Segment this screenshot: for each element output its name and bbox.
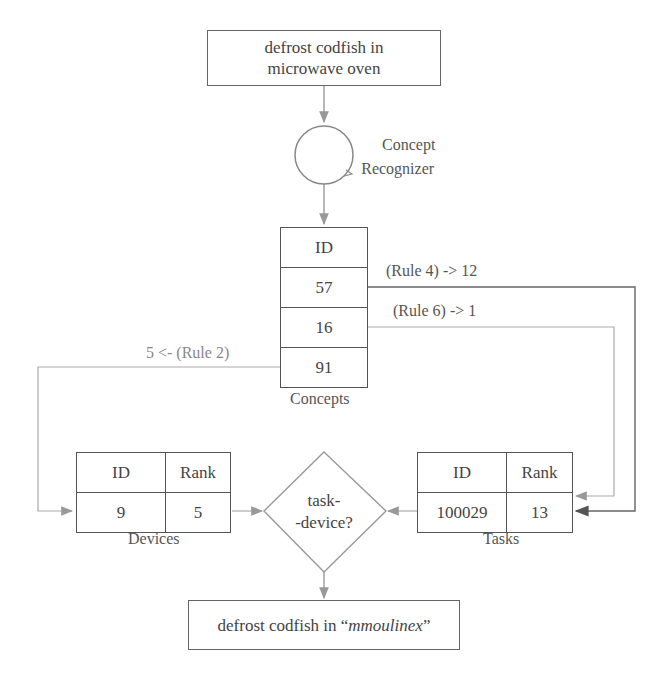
tasks-table: ID Rank 100029 13 — [417, 452, 573, 533]
task-id-cell: 100029 — [418, 493, 507, 533]
output-text: defrost codfish in “mmoulinex” — [218, 615, 431, 636]
concepts-header-id: ID — [281, 228, 368, 268]
tasks-header-id: ID — [418, 453, 507, 493]
output-box: defrost codfish in “mmoulinex” — [188, 600, 460, 650]
decision-text: task- -device? — [288, 490, 360, 534]
rule2-label: 5 <- (Rule 2) — [146, 344, 229, 362]
devices-header-rank: Rank — [166, 453, 231, 493]
recognizer-circle-icon — [295, 126, 353, 184]
concepts-table: ID 57 16 91 — [280, 227, 368, 388]
concept-id-cell: 91 — [281, 348, 368, 388]
rule6-label: (Rule 6) -> 1 — [393, 302, 476, 320]
task-rank-cell: 13 — [507, 493, 573, 533]
tasks-label: Tasks — [483, 530, 519, 548]
recognizer-label: Concept Recognizer — [360, 133, 435, 181]
concepts-label: Concepts — [290, 390, 350, 408]
device-rank-cell: 5 — [166, 493, 231, 533]
device-name: mmoulinex — [348, 616, 423, 635]
devices-table: ID Rank 9 5 — [76, 452, 231, 533]
device-id-cell: 9 — [77, 493, 166, 533]
tasks-header-rank: Rank — [507, 453, 573, 493]
concept-id-cell: 16 — [281, 308, 368, 348]
devices-header-id: ID — [77, 453, 166, 493]
input-task-line2: microwave oven — [268, 58, 381, 79]
concept-id-cell: 57 — [281, 268, 368, 308]
input-task-box: defrost codfish in microwave oven — [207, 30, 441, 86]
rule4-label: (Rule 4) -> 12 — [386, 262, 477, 280]
devices-label: Devices — [128, 530, 180, 548]
input-task-line1: defrost codfish in — [265, 37, 384, 58]
